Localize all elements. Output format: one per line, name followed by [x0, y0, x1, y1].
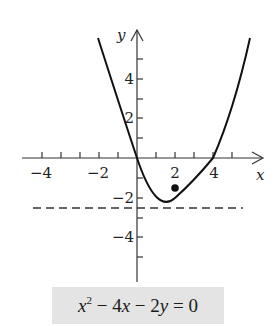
- caption-text: − 2: [130, 295, 160, 316]
- caption-y: y: [160, 295, 168, 316]
- x-axis: [22, 152, 263, 164]
- parabola-diagram: −4 −2 2 4 4 2 −2 −4 x y: [0, 0, 277, 326]
- focus-point: [171, 184, 179, 192]
- caption-text: = 0: [168, 295, 198, 316]
- x-tick-label: 4: [209, 164, 219, 182]
- caption-x: x: [122, 295, 130, 316]
- y-axis-label: y: [116, 26, 126, 44]
- x-tick-label: −2: [87, 164, 109, 182]
- caption-text: − 4: [92, 295, 122, 316]
- equation-caption: x2 − 4x − 2y = 0: [52, 287, 224, 324]
- x-axis-label: x: [256, 166, 265, 184]
- x-tick-label: −4: [30, 164, 52, 182]
- y-tick-label: 4: [124, 70, 134, 88]
- x-tick-label: 2: [170, 164, 180, 182]
- y-tick-label: −2: [112, 189, 134, 207]
- y-tick-label: −4: [112, 228, 134, 246]
